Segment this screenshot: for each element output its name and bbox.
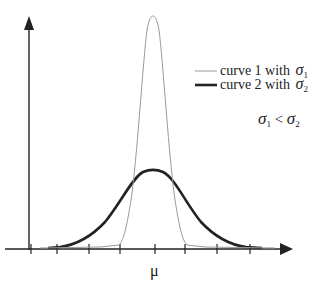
normal-distribution-diagram: curve 1 with σ1 curve 2 with σ2 σ1 < σ2 … xyxy=(0,0,336,289)
legend-label-curve-2: curve 2 with σ2 xyxy=(220,75,308,94)
curve-2 xyxy=(48,170,262,248)
curve-1 xyxy=(40,16,275,248)
y-axis-arrow-icon xyxy=(24,16,34,30)
sigma-comparison-annotation: σ1 < σ2 xyxy=(258,109,300,129)
mean-label-mu: μ xyxy=(150,262,159,280)
x-axis-arrow-icon xyxy=(280,243,293,255)
